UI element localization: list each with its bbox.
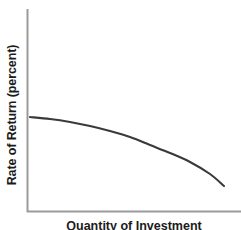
rate-of-return-curve [30,117,224,186]
y-axis-label: Rate of Return (percent) [2,0,22,230]
x-axis-label: Quantity of Investment [27,219,241,230]
chart-plot-area [0,0,241,230]
chart-figure: Rate of Return (percent) Quantity of Inv… [0,0,241,230]
